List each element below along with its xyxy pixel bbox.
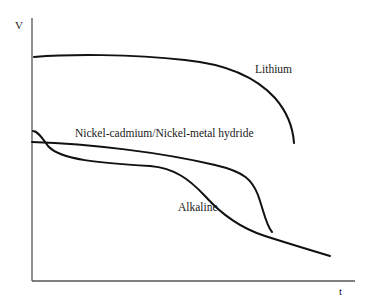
nicd-nimh-label: Nickel-cadmium/Nickel-metal hydride — [75, 127, 254, 140]
alkaline-label: Alkaline — [178, 201, 218, 213]
y-axis-label: V — [15, 19, 23, 31]
lithium-label: Lithium — [255, 63, 292, 75]
alkaline-curve — [33, 131, 330, 256]
discharge-chart: V t Lithium Nickel-cadmium/Nickel-metal … — [0, 0, 370, 304]
x-axis-label: t — [339, 285, 342, 297]
